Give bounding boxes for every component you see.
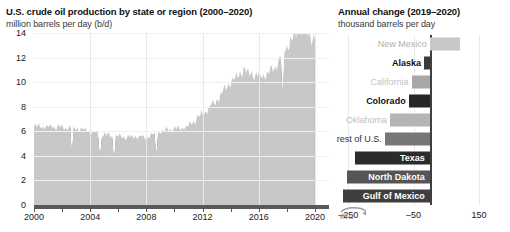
x-axis-tick [315,205,316,212]
x-gridline [146,33,147,205]
eia-logo: eia [336,205,374,225]
x-tick-label: 2020 [305,212,325,222]
x-gridline [479,35,480,205]
bar-label-alaska: Alaska [336,58,421,68]
y-tick-label: 14 [0,28,26,38]
bar-california [412,76,430,89]
x-axis-tick [118,205,119,212]
bar-label-new-mexico: New Mexico [336,39,427,49]
bar-label-colorado: Colorado [336,96,406,106]
x-gridline [315,33,316,205]
eia-logo-text: eia [340,209,354,221]
x-tick-label: 2004 [80,212,100,222]
stacked-area-series-group [34,33,329,205]
y-gridline [34,180,329,181]
y-gridline [34,131,329,132]
y-gridline [34,156,329,157]
x-axis-tick [62,205,63,212]
bar-inside-label-gulf-of-mexico: Gulf of Mexico [343,191,425,201]
x-axis-tick [146,205,147,212]
x-gridline [203,33,204,205]
x-axis-tick [287,205,288,212]
left-x-axis-line [34,205,329,209]
y-gridline [34,82,329,83]
y-tick-label: 0 [0,200,26,210]
y-tick-label: 12 [0,53,26,63]
x-axis-tick [34,205,35,212]
x-tick-label: 2012 [193,212,213,222]
bar-oklahoma [390,114,430,127]
x-tick-label: 150 [471,210,486,220]
x-gridline [259,33,260,205]
y-gridline [34,58,329,59]
left-chart-panel: U.S. crude oil production by state or re… [0,0,340,232]
bar-alaska [424,57,430,70]
right-chart-subtitle: thousand barrels per day [338,19,435,29]
x-axis-tick [90,205,91,212]
bar-inside-label-north-dakota: North Dakota [347,172,425,182]
x-tick-label: 2000 [24,212,44,222]
y-tick-label: 8 [0,102,26,112]
y-gridline [34,33,329,34]
x-tick-label: 2016 [249,212,269,222]
zero-axis-line [430,35,432,205]
bar-label-california: California [336,77,409,87]
bar-new-mexico [430,38,460,51]
right-chart-title: Annual change (2019–2020) [338,6,460,17]
bar-label-rest-of-u-s-: rest of U.S. [336,134,382,144]
x-axis-tick [174,205,175,212]
y-tick-label: 2 [0,175,26,185]
infographic-root: U.S. crude oil production by state or re… [0,0,510,232]
area-band-new-mexico [34,33,315,205]
bar-inside-label-texas: Texas [355,153,425,163]
left-chart-title: U.S. crude oil production by state or re… [6,6,252,17]
right-chart-panel: Annual change (2019–2020) thousand barre… [336,0,510,232]
y-gridline [34,107,329,108]
x-axis-tick [259,205,260,212]
x-axis-tick [231,205,232,212]
left-plot-area [34,33,329,205]
bar-rest-of-u-s- [385,132,430,145]
y-tick-label: 10 [0,77,26,87]
bar-colorado [409,95,430,108]
x-axis-tick [203,205,204,212]
x-gridline [90,33,91,205]
y-tick-label: 6 [0,126,26,136]
y-tick-label: 4 [0,151,26,161]
bar-label-oklahoma: Oklahoma [336,115,387,125]
x-tick-label: –50 [406,210,421,220]
x-tick-label: 2008 [136,212,156,222]
